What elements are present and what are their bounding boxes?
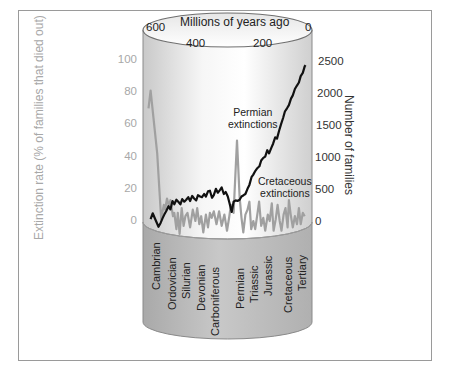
period-ordovician: Ordovician xyxy=(166,257,178,310)
x-tick-0: 0 xyxy=(305,21,311,33)
cylinder-chart xyxy=(0,0,450,372)
y-right-tick-2500: 2500 xyxy=(318,55,344,67)
y-right-tick-1000: 1000 xyxy=(315,151,341,163)
x-tick-200: 200 xyxy=(253,37,272,49)
period-triassic: Triassic xyxy=(248,266,260,303)
period-cretaceous: Cretaceous xyxy=(282,257,294,313)
y-left-tick-0: 0 xyxy=(107,214,137,226)
y-right-tick-1500: 1500 xyxy=(316,119,342,131)
period-devonian: Devonian xyxy=(195,265,207,311)
annotation-cretaceous-line1: Cretaceous xyxy=(258,175,312,187)
y-right-tick-0: 0 xyxy=(315,215,321,227)
y-left-tick-40: 40 xyxy=(107,150,137,162)
y-left-tick-60: 60 xyxy=(107,117,137,129)
period-jurassic: Jurassic xyxy=(262,256,274,296)
y-right-tick-2000: 2000 xyxy=(317,87,343,99)
period-permian: Permian xyxy=(234,268,246,309)
x-axis-title: Millions of years ago xyxy=(180,15,289,29)
y-axis-right-title: Number of families xyxy=(342,95,356,195)
y-right-tick-500: 500 xyxy=(315,183,334,195)
period-carboniferous: Carboniferous xyxy=(209,267,221,336)
period-tertiary: Tertiary xyxy=(296,255,308,291)
y-left-tick-80: 80 xyxy=(107,85,137,97)
annotation-cretaceous: Cretaceous extinctions xyxy=(258,175,312,199)
x-tick-400: 400 xyxy=(186,37,205,49)
annotation-permian: Permian extinctions xyxy=(228,106,278,130)
annotation-permian-line2: extinctions xyxy=(228,118,278,130)
annotation-permian-line1: Permian xyxy=(228,106,278,118)
x-tick-600: 600 xyxy=(146,21,165,33)
y-axis-left-title: Extinction rate (% of families that died… xyxy=(32,15,46,240)
y-left-tick-20: 20 xyxy=(107,182,137,194)
annotation-cretaceous-line2: extinctions xyxy=(258,187,312,199)
y-left-tick-100: 100 xyxy=(107,53,137,65)
period-silurian: Silurian xyxy=(180,262,192,299)
period-cambrian: Cambrian xyxy=(150,242,162,290)
